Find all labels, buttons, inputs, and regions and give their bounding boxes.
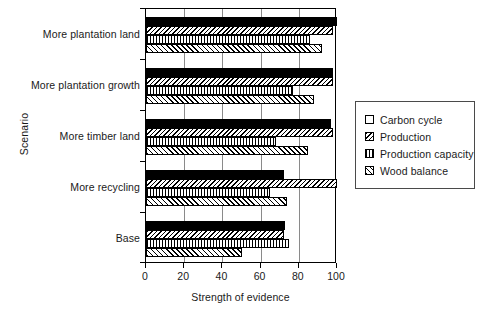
- bar: [146, 17, 337, 26]
- legend-swatch-icon: [365, 132, 374, 141]
- legend-item: Wood balance: [356, 162, 474, 179]
- bar: [146, 44, 322, 53]
- legend-swatch-icon: [365, 166, 374, 175]
- bar: [146, 137, 276, 146]
- y-axis-category-label: More recycling: [70, 181, 140, 193]
- bar-group: [146, 60, 335, 111]
- bar: [146, 188, 270, 197]
- bar: [146, 77, 333, 86]
- legend-item: Production: [356, 128, 474, 145]
- bar-group: [146, 162, 335, 213]
- x-axis-tick: [260, 263, 261, 268]
- bar: [146, 128, 333, 137]
- bar: [146, 179, 337, 188]
- legend-swatch-icon: [365, 115, 374, 124]
- bar: [146, 248, 242, 257]
- legend-label: Production capacity: [380, 148, 474, 160]
- bar-group: [146, 9, 335, 60]
- y-axis-category-label: Base: [116, 232, 140, 244]
- x-axis-tick-label: 20: [177, 270, 189, 282]
- x-axis-tick: [336, 263, 337, 268]
- x-axis-tick-label: 100: [327, 270, 345, 282]
- y-axis-category-label: More timber land: [60, 130, 140, 142]
- bar: [146, 230, 284, 239]
- legend-label: Wood balance: [380, 165, 448, 177]
- plot-area: [145, 8, 336, 263]
- x-axis-tick: [298, 263, 299, 268]
- x-axis-tick: [183, 263, 184, 268]
- bar: [146, 95, 314, 104]
- x-axis-title: Strength of evidence: [145, 291, 336, 303]
- bar-group: [146, 213, 335, 264]
- x-axis-tick: [145, 263, 146, 268]
- legend: Carbon cycleProductionProduction capacit…: [355, 101, 475, 189]
- legend-item: Carbon cycle: [356, 111, 474, 128]
- legend-label: Production: [380, 131, 431, 143]
- bar-chart: Scenario More plantation landMore planta…: [0, 0, 482, 321]
- bar: [146, 170, 284, 179]
- bar: [146, 197, 287, 206]
- x-axis-tick-label: 80: [292, 270, 304, 282]
- bar: [146, 119, 331, 128]
- x-axis-tick-labels: 020406080100: [145, 270, 336, 284]
- y-axis-category-label: More plantation growth: [31, 79, 140, 91]
- bar: [146, 221, 285, 230]
- legend-swatch-icon: [365, 149, 374, 158]
- bar: [146, 26, 333, 35]
- x-axis-ticks: [145, 263, 336, 269]
- x-axis-tick-label: 60: [254, 270, 266, 282]
- y-axis-category-label: More plantation land: [43, 28, 140, 40]
- x-axis-tick-label: 40: [216, 270, 228, 282]
- legend-item: Production capacity: [356, 145, 474, 162]
- legend-label: Carbon cycle: [380, 114, 442, 126]
- bar: [146, 86, 293, 95]
- x-axis-tick-label: 0: [142, 270, 148, 282]
- bar: [146, 239, 289, 248]
- bar: [146, 68, 333, 77]
- bar: [146, 35, 310, 44]
- bar-group: [146, 111, 335, 162]
- x-axis-tick: [221, 263, 222, 268]
- y-axis-category-labels: More plantation landMore plantation grow…: [0, 8, 143, 263]
- bar: [146, 146, 308, 155]
